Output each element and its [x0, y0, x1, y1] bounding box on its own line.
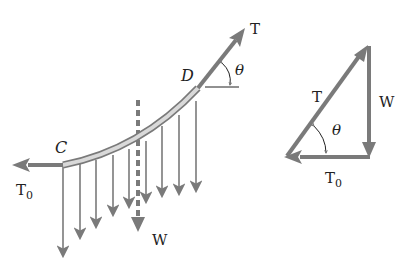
t0-label: T0 — [16, 181, 33, 202]
point-d-label: D — [180, 66, 194, 85]
point-c-label: C — [55, 138, 67, 157]
triangle-w-label: W — [379, 93, 395, 111]
weight-label: W — [152, 231, 168, 249]
cable-segment — [63, 88, 198, 165]
distributed-load-arrows — [63, 101, 196, 255]
triangle-angle-arc — [314, 126, 326, 153]
cable-outline — [63, 88, 198, 165]
t-label: T — [250, 20, 260, 38]
triangle-t-label: T — [312, 88, 322, 106]
tension-at-d: T D θ — [180, 20, 260, 88]
triangle-t0-subscript: 0 — [335, 177, 342, 190]
angle-arc — [222, 63, 230, 85]
cable-free-body-diagram: W T0 C T D θ T W θ T0 — [0, 0, 414, 271]
weight-arrowhead — [131, 217, 145, 232]
triangle-theta-label: θ — [332, 121, 341, 139]
t0-arrowhead — [12, 158, 30, 172]
t0-subscript: 0 — [26, 189, 33, 202]
force-triangle: T W θ T0 — [284, 45, 395, 190]
triangle-t0-arrowhead — [284, 150, 302, 164]
triangle-t0-label: T0 — [325, 169, 342, 190]
horizontal-tension-at-c: T0 C — [12, 138, 67, 202]
cable-fill — [63, 88, 198, 165]
angle-theta-label: θ — [235, 61, 244, 79]
